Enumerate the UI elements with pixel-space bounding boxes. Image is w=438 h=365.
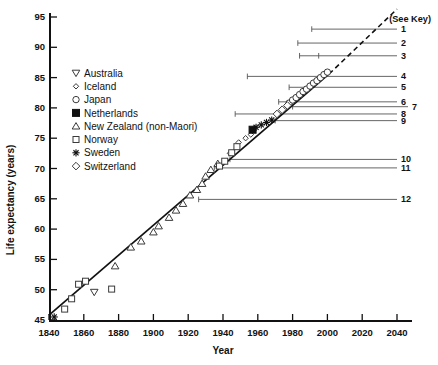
generated-layer: 1234567891011124550556065707580859095184… — [34, 9, 417, 337]
y-tick-label: 65 — [34, 193, 45, 204]
legend-marker-australia — [72, 70, 80, 76]
data-point-sweden — [260, 124, 262, 126]
data-point-sweden — [53, 316, 55, 318]
legend-label-norway: Norway — [84, 134, 118, 145]
x-axis-title: Year — [212, 345, 233, 356]
y-tick-label: 45 — [34, 314, 45, 325]
life-expectancy-chart: 1234567891011124550556065707580859095184… — [0, 0, 438, 365]
legend-marker-norway — [73, 137, 79, 143]
legend-label-switzerland: Switzerland — [84, 161, 136, 172]
data-point-norway — [76, 281, 82, 287]
key-line-number: 1 — [401, 24, 406, 34]
legend-marker-sweden — [75, 152, 77, 154]
data-point-sweden — [255, 126, 257, 128]
legend-label-australia: Australia — [84, 68, 123, 79]
legend-label-new-zealand-non-maori: New Zealand (non-Maori) — [84, 121, 197, 132]
key-line-number: 12 — [401, 194, 411, 204]
y-tick-label: 95 — [34, 11, 45, 22]
legend-marker-new-zealand-non-maori — [72, 123, 80, 129]
x-tick-label: 1880 — [108, 327, 129, 338]
legend-label-netherlands: Netherlands — [84, 108, 138, 119]
x-tick-label: 1900 — [143, 327, 164, 338]
data-point-new-zealand-non-maori — [207, 166, 215, 172]
y-tick-label: 75 — [34, 132, 45, 143]
data-point-norway — [222, 158, 228, 164]
data-point-sweden — [271, 119, 273, 121]
plot-area: 1234567891011124550556065707580859095184… — [0, 0, 438, 365]
key-line-number: 2 — [401, 38, 406, 48]
x-tick-label: 1840 — [38, 327, 59, 338]
legend-label-iceland: Iceland — [84, 81, 116, 92]
x-tick-label: 1960 — [247, 327, 268, 338]
y-axis-title: Life expectancy (years) — [5, 145, 16, 256]
data-point-new-zealand-non-maori — [150, 229, 158, 235]
data-point-iceland — [243, 136, 248, 141]
legend-label-sweden: Sweden — [84, 147, 120, 158]
data-point-norway — [229, 150, 235, 156]
data-point-new-zealand-non-maori — [111, 262, 119, 268]
key-line-number: 5 — [401, 82, 406, 92]
y-tick-label: 55 — [34, 253, 45, 264]
key-line-number: 7 — [412, 102, 417, 112]
x-tick-label: 2000 — [317, 327, 338, 338]
data-point-norway — [69, 296, 75, 302]
key-line-number: 9 — [401, 116, 406, 126]
x-tick-label: 1980 — [282, 327, 303, 338]
x-tick-label: 2020 — [352, 327, 373, 338]
legend-marker-japan — [73, 96, 79, 102]
y-tick-label: 70 — [34, 163, 45, 174]
see-key-label: (See Key) — [389, 14, 431, 24]
data-point-norway — [62, 306, 68, 312]
x-tick-label: 1940 — [212, 327, 233, 338]
y-tick-label: 90 — [34, 41, 45, 52]
data-point-australia — [90, 289, 98, 295]
legend-marker-netherlands — [73, 109, 80, 116]
data-point-norway — [234, 144, 240, 150]
data-point-sweden — [265, 121, 267, 123]
trend-line-dashed — [329, 9, 397, 74]
key-line-number: 3 — [401, 51, 406, 61]
x-tick-label: 1860 — [73, 327, 94, 338]
x-tick-label: 2040 — [386, 327, 407, 338]
x-tick-label: 1920 — [178, 327, 199, 338]
legend-marker-switzerland — [72, 162, 80, 170]
legend-marker-iceland — [73, 84, 78, 89]
key-line-number: 4 — [401, 71, 406, 81]
key-line-number: 11 — [401, 163, 411, 173]
y-tick-label: 60 — [34, 223, 45, 234]
legend-label-japan: Japan — [84, 94, 111, 105]
data-point-japan — [324, 69, 330, 75]
y-tick-label: 80 — [34, 102, 45, 113]
y-tick-label: 85 — [34, 72, 45, 83]
data-point-norway — [109, 286, 115, 292]
data-point-new-zealand-non-maori — [202, 173, 210, 179]
key-line-number: 6 — [401, 97, 406, 107]
data-point-norway — [83, 278, 89, 284]
y-tick-label: 50 — [34, 284, 45, 295]
